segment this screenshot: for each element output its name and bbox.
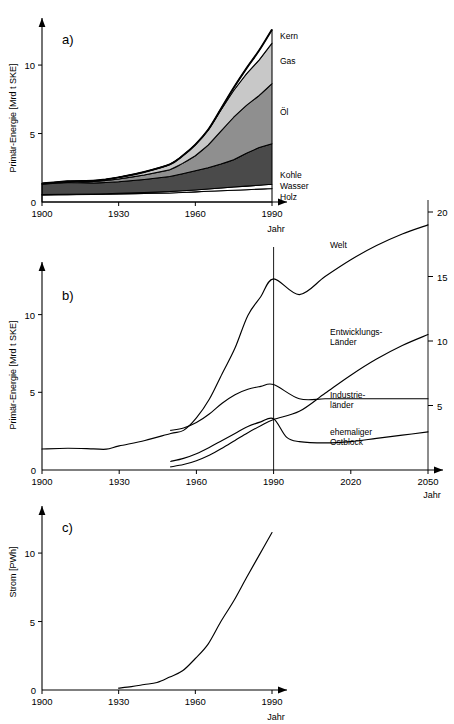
- panel-c-ylabel: Strom [PWh]: [8, 546, 18, 597]
- panel-b-xtick-2050: 2050: [417, 476, 438, 487]
- legend-label-gas: Gas: [280, 56, 296, 66]
- panel-a-ytick-5: 5: [30, 129, 35, 140]
- panel-b-ytick-0: 0: [31, 465, 36, 476]
- panel-a-xtick-1960: 1960: [185, 208, 206, 219]
- panel-c-xaxis-head: [278, 687, 287, 694]
- panel-b-ytick-5: 5: [30, 387, 35, 398]
- panel-c-yaxis-head: [39, 506, 46, 515]
- panel-b-xtick-1990: 1990: [263, 476, 284, 487]
- panel-b-right-tick-5: 5: [437, 401, 442, 412]
- legend-label-holz: Holz: [280, 192, 297, 202]
- panel-c-xtick-1900: 1900: [31, 696, 52, 707]
- panel-a-ylabel: Primär-Energie [Mrd t SKE]: [8, 63, 18, 172]
- panel-a-xtick-1930: 1930: [108, 208, 129, 219]
- panel-a-xtick-1900: 1900: [31, 208, 52, 219]
- panel-b-xtick-2020: 2020: [340, 476, 361, 487]
- line-industrie-l-nder: [171, 384, 428, 431]
- energy-figure: Primär-Energie [Mrd t SKE]a)HolzWasserKo…: [0, 0, 454, 724]
- panel-b-ylabel: Primär-Energie [Mrd t SKE]: [8, 320, 18, 429]
- panel-a-ytick-10: 10: [24, 60, 35, 71]
- panel-b-letter: b): [62, 288, 74, 303]
- panel-c-ytick-5: 5: [30, 617, 35, 628]
- panel-b-right-tick-20: 20: [437, 207, 448, 218]
- series-label-entwicklungs-l-nder: Entwicklungs-Länder: [330, 327, 383, 347]
- panel-b-xaxis-head: [434, 467, 443, 474]
- series-label-welt: Welt: [330, 240, 347, 250]
- panel-c-xtick-1990: 1990: [261, 696, 282, 707]
- panel-b-xtick-1960: 1960: [186, 476, 207, 487]
- legend-label-wasser: Wasser: [280, 181, 309, 191]
- panel-c-xtick-1930: 1930: [108, 696, 129, 707]
- panel-b-xtick-1900: 1900: [31, 476, 52, 487]
- panel-c-ytick-0: 0: [31, 685, 36, 696]
- legend-label-kohle: Kohle: [280, 170, 302, 180]
- line-strom: [119, 533, 272, 689]
- panel-c-xtick-1960: 1960: [185, 696, 206, 707]
- series-label-ehemaliger-ostblock: ehemaligerOstblock: [330, 427, 372, 447]
- panel-b-xlabel: Jahr: [423, 490, 441, 500]
- panel-b-ytick-10: 10: [24, 310, 35, 321]
- panel-b-xtick-1930: 1930: [109, 476, 130, 487]
- legend-label-kern: Kern: [280, 31, 298, 41]
- series-label-industrie-l-nder: Industrie-länder: [330, 390, 366, 410]
- panel-b-right-tick-10: 10: [437, 336, 448, 347]
- panel-a-letter: a): [62, 32, 74, 47]
- panel-a-xtick-1990: 1990: [261, 208, 282, 219]
- panel-c-xlabel: Jahr: [267, 712, 285, 722]
- panel-a-xlabel: Jahr: [267, 224, 285, 234]
- panel-c-letter: c): [62, 520, 73, 535]
- legend-label-l: Öl: [280, 107, 289, 117]
- figure-canvas: Primär-Energie [Mrd t SKE]a)HolzWasserKo…: [0, 0, 454, 724]
- panel-c-ytick-10: 10: [24, 548, 35, 559]
- panel-a-ytick-0: 0: [31, 197, 36, 208]
- panel-b-yaxis-head: [39, 262, 46, 271]
- panel-a-yaxis-head: [39, 18, 46, 27]
- panel-b-right-tick-15: 15: [437, 272, 448, 283]
- line-welt: [42, 225, 428, 449]
